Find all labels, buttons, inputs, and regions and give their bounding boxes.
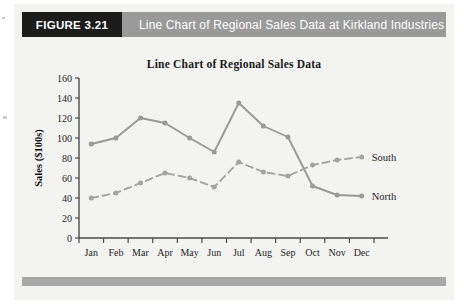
scan-artifact — [2, 17, 5, 19]
chart-title: Line Chart of Regional Sales Data — [22, 58, 446, 70]
x-tick-label: Apr — [157, 247, 173, 258]
x-tick-label: Jun — [207, 247, 221, 258]
data-point-north — [285, 135, 290, 140]
data-point-south — [236, 160, 241, 165]
figure-page: FIGURE 3.21 Line Chart of Regional Sales… — [0, 0, 465, 307]
x-tick-label: May — [180, 247, 198, 258]
x-tick-label: Oct — [305, 247, 320, 258]
data-point-north — [310, 184, 315, 189]
data-point-south — [335, 158, 340, 163]
x-tick-label: Jan — [85, 247, 98, 258]
data-point-south — [163, 171, 168, 176]
data-point-north — [138, 116, 143, 121]
y-tick-label: 20 — [62, 213, 72, 224]
data-point-north — [212, 150, 217, 155]
line-chart-svg: 020406080100120140160Sales ($100s)JanFeb… — [22, 72, 446, 268]
data-point-north — [163, 121, 168, 126]
plot-area: 020406080100120140160Sales ($100s)JanFeb… — [22, 72, 446, 268]
series-line-north — [91, 103, 361, 196]
scan-artifact — [3, 116, 7, 119]
series-label-north: North — [372, 191, 397, 202]
series-label-south: South — [372, 152, 397, 163]
y-tick-label: 140 — [57, 93, 72, 104]
y-axis-title: Sales ($100s) — [33, 129, 45, 187]
data-point-south — [212, 185, 217, 190]
figure-number-tag: FIGURE 3.21 — [22, 12, 122, 37]
x-tick-label: Nov — [329, 247, 346, 258]
x-tick-label: Dec — [354, 247, 371, 258]
data-point-south — [359, 155, 364, 160]
x-tick-label: Sep — [280, 247, 295, 258]
y-tick-label: 120 — [57, 113, 72, 124]
data-point-south — [138, 181, 143, 186]
x-tick-label: Mar — [132, 247, 149, 258]
y-tick-label: 40 — [62, 193, 72, 204]
data-point-south — [113, 191, 118, 196]
y-tick-label: 100 — [57, 133, 72, 144]
y-tick-label: 0 — [67, 233, 72, 244]
figure-banner: FIGURE 3.21 Line Chart of Regional Sales… — [22, 12, 446, 37]
y-tick-label: 80 — [62, 153, 72, 164]
data-point-south — [261, 170, 266, 175]
data-point-north — [335, 193, 340, 198]
data-point-south — [187, 176, 192, 181]
figure-caption: Line Chart of Regional Sales Data at Kir… — [122, 12, 446, 37]
x-tick-label: Feb — [108, 247, 123, 258]
y-tick-label: 60 — [62, 173, 72, 184]
data-point-north — [187, 136, 192, 141]
data-point-north — [113, 136, 118, 141]
x-tick-label: Aug — [255, 247, 272, 258]
data-point-south — [285, 174, 290, 179]
data-point-north — [359, 194, 364, 199]
x-tick-label: Jul — [233, 247, 245, 258]
y-tick-label: 160 — [57, 73, 72, 84]
data-point-south — [310, 163, 315, 168]
footer-rule — [22, 277, 446, 286]
data-point-north — [261, 124, 266, 129]
data-point-north — [89, 142, 94, 147]
series-line-south — [91, 157, 361, 198]
chart-container: Line Chart of Regional Sales Data 020406… — [22, 46, 446, 272]
data-point-north — [236, 101, 241, 106]
data-point-south — [89, 196, 94, 201]
